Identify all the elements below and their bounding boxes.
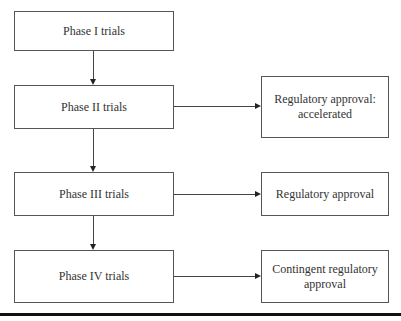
outcome-contingent-box: Contingent regulatory approval [261,250,389,303]
connector-3-4 [93,216,94,244]
outcome-contingent-label: Contingent regulatory approval [270,262,380,292]
connector-2-3 [93,129,94,166]
phase-4-label: Phase IV trials [59,269,129,284]
outcome-accelerated-label: Regulatory approval: accelerated [270,92,380,122]
phase-3-label: Phase III trials [59,187,129,202]
outcome-approval-box: Regulatory approval [261,172,389,216]
phase-1-box: Phase I trials [14,11,174,51]
connector-2-accelerated [174,106,255,107]
phase-2-box: Phase II trials [14,85,174,129]
bottom-rule [0,313,401,316]
phase-2-label: Phase II trials [61,100,127,115]
connector-4-contingent [174,276,255,277]
connector-1-2 [93,51,94,79]
phase-1-label: Phase I trials [63,24,125,39]
connector-3-approval [174,194,255,195]
outcome-approval-label: Regulatory approval [276,187,374,202]
outcome-accelerated-box: Regulatory approval: accelerated [261,76,389,138]
phase-4-box: Phase IV trials [14,250,174,303]
phase-3-box: Phase III trials [14,172,174,216]
